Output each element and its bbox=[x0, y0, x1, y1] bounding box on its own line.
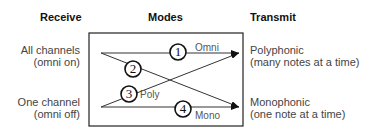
omni-label: Omni bbox=[195, 42, 219, 53]
mode-3-number: 3 bbox=[123, 86, 135, 102]
poly-label: Poly bbox=[140, 89, 159, 100]
mode-4-number: 4 bbox=[177, 101, 189, 117]
mode-2-number: 2 bbox=[127, 61, 139, 77]
mode-1-number: 1 bbox=[172, 44, 184, 60]
mono-label: Mono bbox=[195, 110, 220, 121]
